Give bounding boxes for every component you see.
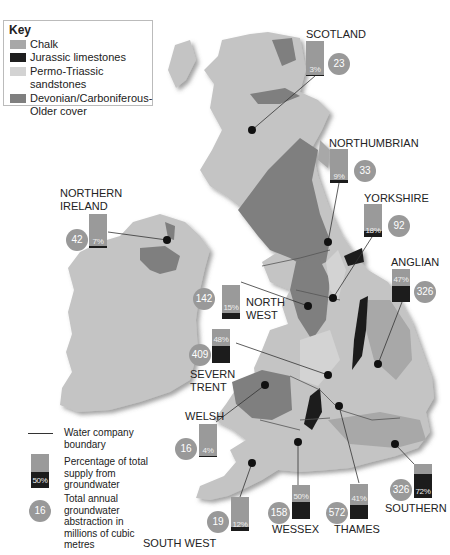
abstraction-circle-northern-ireland: 42: [66, 229, 88, 251]
region-label-thames: THAMES: [334, 523, 380, 536]
region-label-welsh: WELSH: [185, 410, 224, 423]
legend-boundary-text: Water company boundary: [64, 427, 154, 450]
abstraction-circle-northumbrian: 33: [354, 160, 376, 182]
key-item-permo-triassic: Permo-Triassic sandstones: [9, 65, 147, 92]
region-label-severn-trent: SEVERNTRENT: [190, 368, 235, 393]
region-label-yorkshire: YORKSHIRE: [364, 192, 429, 205]
jurassic-swatch: [10, 53, 26, 62]
groundwater-bar-welsh: 4%: [199, 424, 217, 457]
legend-circle-text: Total annual groundwater abstraction in …: [64, 493, 148, 551]
boundary-line-sample: [28, 433, 53, 434]
region-label-anglian: ANGLIAN: [391, 256, 439, 269]
region-label-south-west: SOUTH WEST: [143, 537, 216, 550]
key-item-devonian: Devonian/Carboniferous-Older cover: [9, 92, 147, 119]
key-item-chalk: Chalk: [9, 38, 147, 52]
legend-circle-sample: 16: [29, 500, 51, 522]
legend-bar-sample: 50%: [31, 454, 49, 488]
abstraction-circle-severn-trent: 409: [189, 344, 211, 366]
abstraction-circle-yorkshire: 92: [388, 215, 410, 237]
key-title: Key: [9, 24, 147, 38]
key-item-jurassic: Jurassic limestones: [9, 51, 147, 65]
abstraction-circle-southern: 326: [390, 479, 412, 501]
groundwater-bar-scotland: 3%: [306, 41, 324, 76]
region-label-northern-ireland: NORTHERNIRELAND: [60, 187, 122, 212]
region-label-wessex: WESSEX: [272, 523, 319, 536]
permo-swatch: [10, 67, 26, 76]
groundwater-bar-south-west: 12%: [231, 497, 249, 531]
abstraction-circle-thames: 572: [326, 502, 348, 524]
abstraction-circle-scotland: 23: [328, 53, 350, 75]
groundwater-bar-northumbrian: 9%: [330, 149, 348, 183]
groundwater-bar-wessex: 50%: [292, 485, 310, 519]
abstraction-circle-welsh: 16: [175, 438, 197, 460]
groundwater-bar-southern: 72%: [414, 464, 432, 498]
groundwater-bar-thames: 41%: [350, 484, 368, 519]
groundwater-bar-northern-ireland: 7%: [89, 214, 107, 248]
abstraction-circle-wessex: 158: [268, 502, 290, 524]
devonian-swatch: [10, 94, 26, 103]
abstraction-circle-anglian: 326: [414, 281, 436, 303]
region-label-north-west: NORTHWEST: [246, 296, 285, 321]
chalk-swatch: [10, 40, 26, 49]
abstraction-circle-north-west: 142: [193, 288, 215, 310]
groundwater-bar-anglian: 47%: [392, 269, 410, 302]
geology-key: Key Chalk Jurassic limestones Permo-Tria…: [3, 20, 153, 106]
groundwater-bar-yorkshire: 18%: [364, 204, 382, 237]
region-label-scotland: SCOTLAND: [306, 28, 366, 41]
legend-bar-text: Percentage of total supply from groundwa…: [64, 456, 154, 491]
region-label-northumbrian: NORTHUMBRIAN: [329, 137, 419, 150]
region-label-southern: SOUTHERN: [385, 502, 447, 515]
groundwater-bar-north-west: 15%: [222, 285, 240, 319]
abstraction-circle-south-west: 19: [207, 511, 229, 533]
groundwater-bar-severn-trent: 48%: [212, 329, 230, 363]
